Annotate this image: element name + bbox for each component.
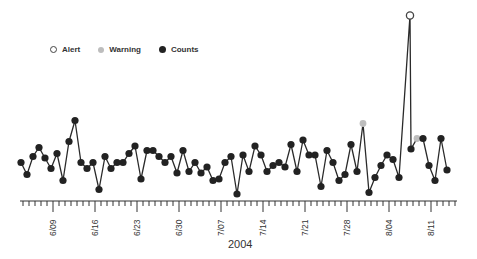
count-point [125,150,132,157]
count-point [131,142,138,149]
count-point [71,117,78,124]
count-point [41,154,48,161]
count-point [383,151,390,158]
count-point [371,174,378,181]
warning-marker-icon [98,47,104,53]
x-tick-label: 8/04 [384,219,394,236]
count-point [149,147,156,154]
count-point [293,168,300,175]
count-point [443,166,450,173]
legend-label-counts: Counts [171,45,199,54]
count-point [287,141,294,148]
legend-item-counts: Counts [159,45,199,54]
count-point [17,159,24,166]
x-tick-label: 6/16 [90,219,100,236]
count-point [437,135,444,142]
count-point [197,169,204,176]
count-point [59,177,66,184]
count-point [245,168,252,175]
counts-marker-icon [159,46,166,53]
legend-item-warning: Warning [98,45,141,54]
count-point [161,159,168,166]
legend-item-alert: Alert [50,45,80,54]
count-point [251,142,258,149]
count-point [425,162,432,169]
count-point [179,147,186,154]
count-point [53,150,60,157]
x-tick-label: 7/21 [300,219,310,236]
count-point [215,175,222,182]
x-tick-label: 6/30 [174,219,184,236]
count-point [203,163,210,170]
count-point [101,153,108,160]
legend: Alert Warning Counts [50,45,217,54]
x-axis-year-label: 2004 [228,238,252,250]
count-point [209,177,216,184]
count-point [323,147,330,154]
x-tick-label: 7/28 [342,219,352,236]
count-point [107,165,114,172]
count-point [137,175,144,182]
count-point [29,153,36,160]
count-point [347,141,354,148]
count-point [221,159,228,166]
legend-label-alert: Alert [62,45,80,54]
warning-point [360,120,367,127]
count-point [95,186,102,193]
x-tick-label: 6/23 [132,219,142,236]
count-point [257,151,264,158]
count-point [65,138,72,145]
x-axis [20,201,457,212]
count-point [341,171,348,178]
alert-point [406,12,413,19]
count-point [155,153,162,160]
count-point [173,169,180,176]
count-point [83,165,90,172]
count-point [167,153,174,160]
count-point [275,159,282,166]
count-point [395,174,402,181]
count-point [119,159,126,166]
count-point [335,177,342,184]
count-point [35,144,42,151]
count-point [329,159,336,166]
count-point [239,151,246,158]
count-point [311,151,318,158]
x-tick-label: 7/07 [216,219,226,236]
count-point [389,156,396,163]
count-point [407,145,414,152]
alert-marker-icon [50,46,57,53]
count-point [191,159,198,166]
line-chart [0,0,477,259]
count-point [299,136,306,143]
count-point [353,168,360,175]
count-point [89,159,96,166]
count-point [77,159,84,166]
count-point [23,171,30,178]
count-point [281,163,288,170]
count-point [233,190,240,197]
count-point [419,135,426,142]
warning-point [414,135,421,142]
count-point [185,168,192,175]
count-point [263,168,270,175]
count-point [317,183,324,190]
x-tick-label: 7/14 [258,219,268,236]
count-point [377,162,384,169]
data-points [17,12,450,198]
count-point [431,177,438,184]
count-point [227,153,234,160]
x-tick-label: 6/09 [48,219,58,236]
count-point [365,189,372,196]
legend-label-warning: Warning [109,45,141,54]
count-point [47,165,54,172]
x-tick-label: 8/11 [426,220,436,236]
